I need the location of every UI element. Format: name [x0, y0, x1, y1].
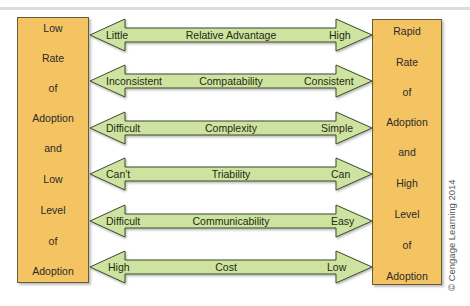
arrow-right-label: Simple — [321, 122, 353, 134]
arrow-center-label: Triability — [212, 168, 251, 180]
arrow-right-label: Easy — [331, 215, 354, 227]
arrow-left-label: Inconsistent — [106, 75, 162, 87]
arrow-left-label: Difficult — [106, 122, 140, 134]
arrow-left-label: Difficult — [106, 215, 140, 227]
copyright-notice: © Cengage Learning 2014 — [446, 179, 457, 291]
arrow-right-label: Low — [327, 261, 346, 273]
arrow-center-label: Communicability — [192, 215, 269, 227]
arrow-right-label: Can — [331, 168, 350, 180]
arrow-right-label: Consistent — [304, 75, 354, 87]
arrow-center-label: Relative Advantage — [186, 29, 276, 41]
arrow-right-label: High — [329, 29, 351, 41]
arrow-center-label: Complexity — [205, 122, 257, 134]
arrow-left-label: High — [108, 261, 130, 273]
arrow-left-label: Can't — [106, 168, 130, 180]
arrow-center-label: Compatability — [199, 75, 263, 87]
arrow-center-label: Cost — [215, 261, 237, 273]
arrow-left-label: Little — [106, 29, 128, 41]
